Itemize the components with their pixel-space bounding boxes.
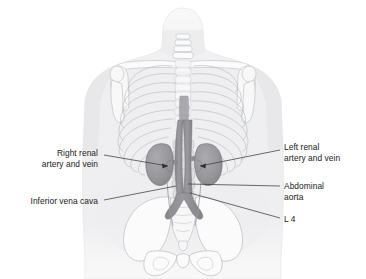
label-right-renal-artery-and-vein: Right renal artery and vein [42, 148, 98, 169]
label-right-renal-line1: Right renal [42, 148, 98, 159]
label-l4-text: L 4 [284, 214, 295, 225]
label-abdominal-aorta-line2: aorta [284, 192, 324, 203]
anatomy-figure: Right renal artery and vein Inferior ven… [0, 0, 366, 279]
cervical-spine [173, 34, 193, 59]
label-l4-vertebra: L 4 [284, 214, 295, 225]
label-abdominal-aorta-line1: Abdominal [284, 181, 324, 192]
label-left-renal-artery-and-vein: Left renal artery and vein [284, 142, 340, 163]
label-inferior-vena-cava: Inferior vena cava [31, 196, 98, 207]
anatomy-illustration [0, 0, 366, 279]
label-inferior-vena-cava-text: Inferior vena cava [31, 196, 98, 207]
label-right-renal-line2: artery and vein [42, 159, 98, 170]
label-abdominal-aorta: Abdominal aorta [284, 181, 324, 202]
label-left-renal-line1: Left renal [284, 142, 340, 153]
label-left-renal-line2: artery and vein [284, 153, 340, 164]
